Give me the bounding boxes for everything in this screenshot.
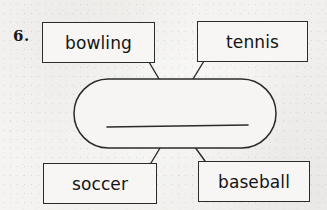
word-box-baseball[interactable]: baseball bbox=[198, 161, 310, 202]
category-oval bbox=[74, 79, 276, 148]
worksheet-diagram: 6. bowling tennis soccer baseball bbox=[0, 0, 327, 210]
word-box-bowling[interactable]: bowling bbox=[42, 22, 155, 63]
word-box-soccer[interactable]: soccer bbox=[43, 163, 157, 204]
word-box-tennis[interactable]: tennis bbox=[197, 21, 308, 62]
